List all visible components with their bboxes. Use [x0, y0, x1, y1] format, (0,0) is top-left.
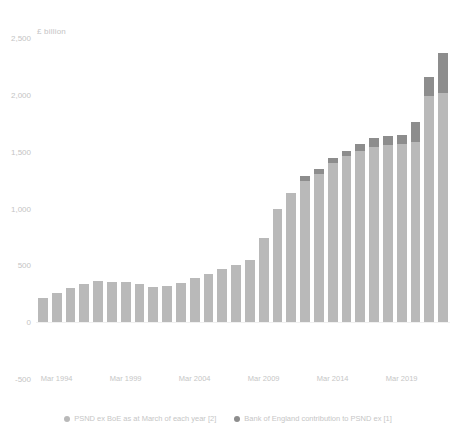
bar-segment-psnd-ex-boe [286, 193, 296, 323]
bar-segment-psnd-ex-boe [52, 293, 62, 322]
bar-group[interactable] [342, 151, 352, 322]
legend-item[interactable]: PSND ex BoE as at March of each year [2] [64, 414, 216, 423]
bar-group[interactable] [121, 282, 131, 322]
bar-group[interactable] [217, 269, 227, 322]
y-axis-tick-label: 2,500 [11, 34, 31, 43]
bar-segment-psnd-ex-boe [314, 174, 324, 322]
bar-segment-psnd-ex-boe [369, 147, 379, 323]
bar-group[interactable] [52, 293, 62, 322]
y-axis-tick-label: -500 [15, 375, 31, 384]
bar-segment-psnd-ex-boe [397, 144, 407, 322]
bar-segment-psnd-ex-boe [383, 145, 393, 322]
bar-segment-boe-contribution [342, 151, 352, 156]
bar-segment-psnd-ex-boe [176, 283, 186, 322]
bar-segment-boe-contribution [369, 138, 379, 147]
bar-segment-boe-contribution [424, 77, 434, 96]
bar-segment-psnd-ex-boe [190, 278, 200, 322]
bar-segment-boe-contribution [355, 144, 365, 151]
bar-group[interactable] [369, 138, 379, 322]
bar-segment-psnd-ex-boe [273, 209, 283, 323]
bar-group[interactable] [38, 298, 48, 322]
y-axis-tick-label: 1,000 [11, 204, 31, 213]
bar-segment-psnd-ex-boe [93, 281, 103, 322]
bar-group[interactable] [397, 135, 407, 323]
bar-segment-psnd-ex-boe [162, 286, 172, 322]
bar-segment-psnd-ex-boe [411, 142, 421, 322]
bar-group[interactable] [273, 209, 283, 323]
bar-group[interactable] [79, 284, 89, 323]
legend-label: PSND ex BoE as at March of each year [2] [74, 414, 216, 423]
bar-segment-psnd-ex-boe [148, 287, 158, 322]
bar-segment-boe-contribution [397, 135, 407, 144]
x-axis-tick-label: Mar 1994 [41, 374, 73, 383]
y-axis-tick-label: 1,500 [11, 147, 31, 156]
bar-group[interactable] [383, 136, 393, 322]
legend-swatch-icon [234, 416, 240, 422]
bar-segment-psnd-ex-boe [342, 156, 352, 322]
bar-group[interactable] [176, 283, 186, 322]
bar-group[interactable] [162, 286, 172, 322]
bar-segment-psnd-ex-boe [38, 298, 48, 322]
bar-segment-psnd-ex-boe [79, 284, 89, 323]
bar-segment-psnd-ex-boe [217, 269, 227, 322]
bar-group[interactable] [135, 284, 145, 322]
bar-group[interactable] [245, 260, 255, 322]
bar-segment-boe-contribution [300, 176, 310, 181]
bar-group[interactable] [204, 274, 214, 322]
bar-segment-psnd-ex-boe [245, 260, 255, 322]
y-axis-tick-label: 2,000 [11, 90, 31, 99]
bar-segment-psnd-ex-boe [328, 163, 338, 322]
bar-group[interactable] [231, 265, 241, 322]
bars-layer [36, 38, 450, 379]
bar-segment-boe-contribution [438, 53, 448, 93]
bar-group[interactable] [314, 169, 324, 322]
bar-segment-psnd-ex-boe [204, 274, 214, 322]
legend-label: Bank of England contribution to PSND ex … [244, 414, 392, 423]
bar-group[interactable] [107, 282, 117, 322]
x-axis-tick-label: Mar 2009 [248, 374, 280, 383]
bar-group[interactable] [148, 287, 158, 322]
x-axis-tick-label: Mar 2019 [386, 374, 418, 383]
y-axis-tick-label: 0 [27, 318, 31, 327]
bar-segment-psnd-ex-boe [355, 151, 365, 323]
bar-segment-boe-contribution [328, 158, 338, 163]
bar-group[interactable] [190, 278, 200, 322]
x-axis-tick-label: Mar 2014 [317, 374, 349, 383]
bar-segment-psnd-ex-boe [231, 265, 241, 322]
chart-legend: PSND ex BoE as at March of each year [2]… [0, 414, 456, 423]
bar-segment-boe-contribution [383, 136, 393, 145]
bar-group[interactable] [300, 176, 310, 323]
legend-item[interactable]: Bank of England contribution to PSND ex … [234, 414, 392, 423]
x-axis-tick-label: Mar 2004 [179, 374, 211, 383]
bar-segment-boe-contribution [411, 122, 421, 142]
bar-segment-psnd-ex-boe [438, 93, 448, 323]
x-axis-tick-label: Mar 1999 [110, 374, 142, 383]
bar-group[interactable] [411, 122, 421, 323]
bar-segment-psnd-ex-boe [107, 282, 117, 322]
bar-group[interactable] [424, 77, 434, 323]
bar-segment-psnd-ex-boe [259, 238, 269, 322]
plot-area: 2,5002,0001,5001,0005000-500 [36, 38, 450, 379]
bar-segment-psnd-ex-boe [300, 181, 310, 323]
y-axis-unit-label: £ billion [37, 27, 66, 36]
bar-group[interactable] [438, 53, 448, 322]
bar-segment-psnd-ex-boe [135, 284, 145, 322]
bar-group[interactable] [259, 238, 269, 322]
chart-container: £ billion 2,5002,0001,5001,0005000-500 M… [0, 0, 456, 445]
bar-group[interactable] [93, 281, 103, 322]
bar-segment-psnd-ex-boe [424, 96, 434, 322]
bar-segment-psnd-ex-boe [121, 282, 131, 322]
x-axis: Mar 1994Mar 1999Mar 2004Mar 2009Mar 2014… [36, 372, 450, 388]
bar-group[interactable] [328, 158, 338, 322]
y-axis-tick-label: 500 [18, 261, 31, 270]
legend-swatch-icon [64, 416, 70, 422]
bar-segment-boe-contribution [314, 169, 324, 175]
bar-group[interactable] [355, 144, 365, 322]
bar-group[interactable] [286, 193, 296, 323]
bar-segment-psnd-ex-boe [66, 288, 76, 322]
bar-group[interactable] [66, 288, 76, 322]
